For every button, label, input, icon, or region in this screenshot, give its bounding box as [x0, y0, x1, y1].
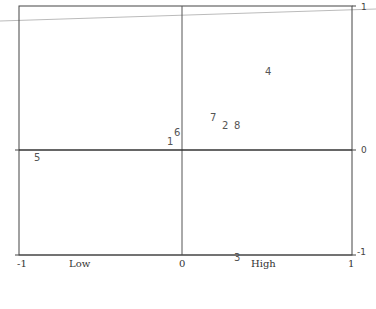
- x-tick-1: 1: [348, 258, 354, 269]
- point-5: 5: [34, 152, 40, 163]
- scatter-chart: 1 0 -1 -1 Low 0 High 1 1 2 3 4 5 6 7 8: [0, 0, 376, 309]
- y-tick-0: 0: [361, 145, 367, 155]
- point-6: 6: [174, 127, 180, 138]
- point-2: 2: [222, 120, 228, 131]
- point-7: 7: [210, 112, 216, 123]
- x-annotation-high: High: [251, 258, 276, 269]
- y-tick-neg1: -1: [357, 247, 366, 257]
- point-4: 4: [265, 66, 271, 77]
- x-tick-neg1: -1: [17, 258, 27, 269]
- x-annotation-low: Low: [69, 258, 91, 269]
- stray-line: [0, 9, 376, 21]
- point-1: 1: [167, 136, 173, 147]
- y-tick-1: 1: [361, 2, 367, 12]
- point-3: 3: [234, 252, 240, 263]
- point-8: 8: [234, 120, 240, 131]
- plot-frame: [19, 6, 352, 255]
- x-tick-0: 0: [179, 258, 185, 269]
